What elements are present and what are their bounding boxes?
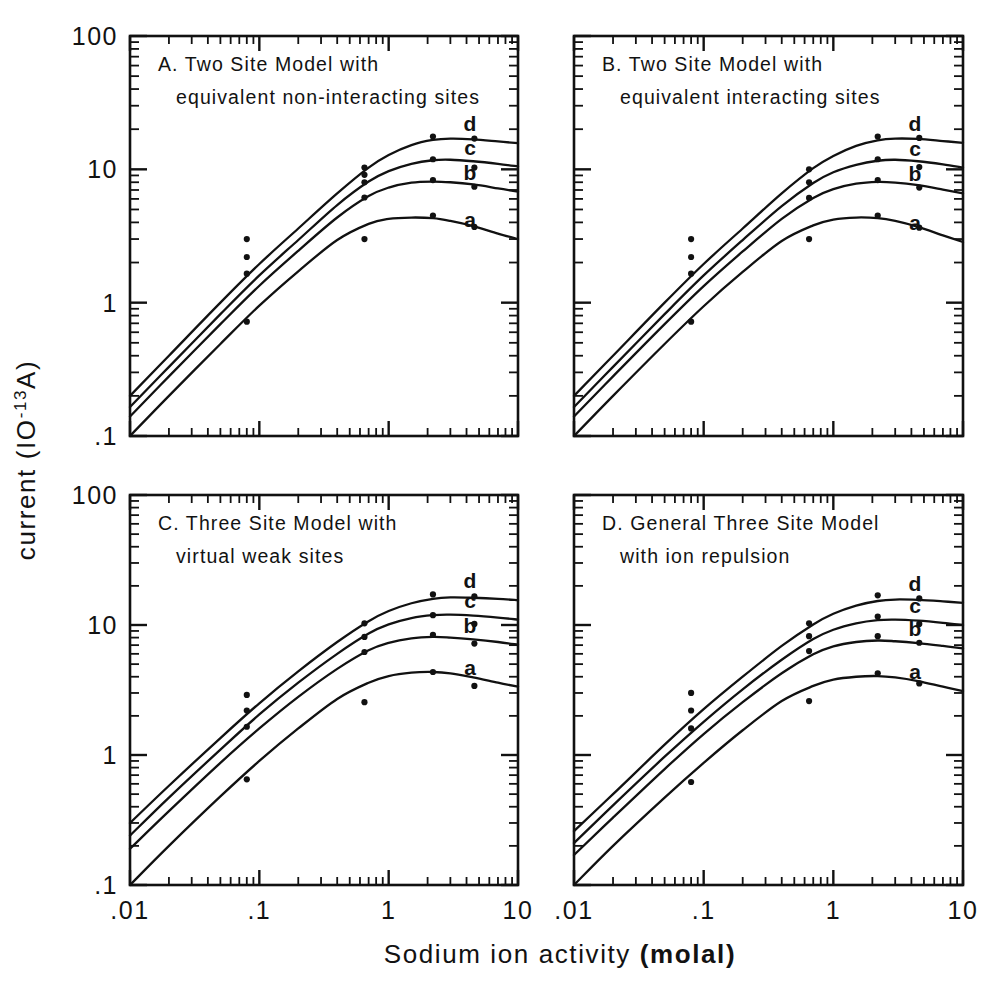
data-point — [361, 620, 367, 626]
panel-c: 100101.1.01.1110C. Three Site Model with… — [72, 481, 534, 924]
curve-label-d: d — [909, 112, 922, 135]
y-tick-label: 100 — [72, 481, 118, 509]
curve-label-b: b — [909, 617, 922, 640]
x-tick-label: 1 — [381, 896, 396, 924]
data-point — [244, 692, 250, 698]
curve-label-a: a — [909, 211, 921, 234]
curve-label-b: b — [464, 161, 477, 184]
x-tick-label: .01 — [110, 896, 149, 924]
x-axis-title-bold: (molal) — [640, 939, 736, 969]
figure-root: 100101.1A. Two Site Model withequivalent… — [0, 0, 999, 993]
data-point — [430, 632, 436, 638]
curve-a — [574, 217, 963, 436]
data-point — [244, 236, 250, 242]
panel-title-line1: B. Two Site Model with — [602, 53, 823, 75]
curve-label-b: b — [464, 614, 477, 637]
data-point — [244, 776, 250, 782]
panel-title-line2: with ion repulsion — [619, 545, 790, 567]
data-point — [875, 212, 881, 218]
x-tick-label: .1 — [247, 896, 271, 924]
panel-a: 100101.1A. Two Site Model withequivalent… — [72, 22, 518, 450]
data-point — [430, 177, 436, 183]
y-tick-label: 1 — [103, 741, 118, 769]
data-point — [430, 156, 436, 162]
x-tick-label: .1 — [692, 896, 716, 924]
y-axis-title: current (IO-13A) — [11, 360, 41, 560]
data-point — [688, 236, 694, 242]
data-point — [471, 640, 477, 646]
x-tick-label: 10 — [503, 896, 534, 924]
curve-d — [574, 599, 963, 831]
y-axis-title-base: IO — [11, 418, 41, 449]
panel-title-line2: equivalent non-interacting sites — [176, 86, 480, 108]
data-point — [875, 670, 881, 676]
curve-b — [574, 640, 963, 855]
curve-label-d: d — [909, 572, 922, 595]
panel-title-line2: virtual weak sites — [176, 545, 344, 567]
curve-label-c: c — [464, 136, 476, 159]
data-point — [875, 156, 881, 162]
curve-label-a: a — [909, 660, 921, 683]
y-axis-title-plain: current ( — [11, 449, 41, 560]
curve-label-c: c — [909, 137, 921, 160]
y-tick-label: .1 — [94, 422, 118, 450]
curve-c — [574, 620, 963, 844]
y-tick-label: 100 — [72, 22, 118, 50]
data-point — [471, 184, 477, 190]
data-point — [361, 194, 367, 200]
data-point — [361, 165, 367, 171]
data-point — [244, 254, 250, 260]
data-point — [875, 633, 881, 639]
figure-canvas: 100101.1A. Two Site Model withequivalent… — [0, 0, 999, 993]
x-tick-label: 10 — [948, 896, 979, 924]
data-point — [361, 172, 367, 178]
x-axis-title: Sodium ion activity (molal) — [384, 939, 736, 969]
curve-label-d: d — [464, 112, 477, 135]
data-point — [244, 707, 250, 713]
curve-label-c: c — [464, 589, 476, 612]
x-tick-label: .01 — [554, 896, 593, 924]
curve-a — [574, 676, 963, 885]
data-point — [875, 177, 881, 183]
panel-title-line1: A. Two Site Model with — [158, 53, 379, 75]
data-point — [806, 179, 812, 185]
data-point — [430, 134, 436, 140]
x-tick-label: 1 — [826, 896, 841, 924]
curve-d — [130, 597, 518, 823]
y-tick-label: .1 — [94, 871, 118, 899]
data-point — [688, 725, 694, 731]
curve-label-b: b — [909, 162, 922, 185]
data-point — [430, 612, 436, 618]
curve-label-a: a — [464, 208, 476, 231]
data-point — [875, 614, 881, 620]
data-point — [806, 195, 812, 201]
data-point — [688, 271, 694, 277]
data-point — [806, 633, 812, 639]
panel-d: .01.1110D. General Three Site Modelwith … — [554, 495, 978, 924]
panel-title-line1: C. Three Site Model with — [158, 512, 398, 534]
data-point — [244, 724, 250, 730]
curve-c — [574, 160, 963, 407]
data-point — [688, 254, 694, 260]
data-point — [875, 134, 881, 140]
y-tick-label: 1 — [103, 289, 118, 317]
data-point — [430, 212, 436, 218]
data-point — [806, 698, 812, 704]
data-point — [244, 271, 250, 277]
x-axis-title-plain: Sodium ion activity — [384, 939, 640, 969]
curve-label-c: c — [909, 594, 921, 617]
panel-b: B. Two Site Model withequivalent interac… — [574, 36, 963, 436]
data-point — [361, 179, 367, 185]
data-point — [688, 707, 694, 713]
data-point — [875, 592, 881, 598]
data-point — [244, 319, 250, 325]
data-point — [471, 683, 477, 689]
data-point — [430, 669, 436, 675]
curve-c — [130, 160, 518, 407]
data-point — [361, 699, 367, 705]
data-point — [688, 690, 694, 696]
data-point — [688, 319, 694, 325]
panel-title-line2: equivalent interacting sites — [620, 86, 881, 108]
data-point — [361, 649, 367, 655]
data-point — [361, 236, 367, 242]
